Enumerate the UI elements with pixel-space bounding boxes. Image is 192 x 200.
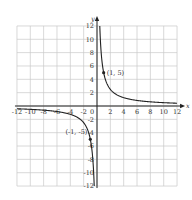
x-tick-label: 2 [108, 108, 112, 116]
y-tick-label: 12 [86, 22, 94, 30]
y-tick-label: 2 [90, 89, 94, 97]
x-axis-label: x [186, 102, 190, 110]
x-tick-label: 8 [148, 108, 152, 116]
y-tick-label: 4 [90, 76, 94, 84]
y-axis-arrow-icon [95, 16, 99, 21]
y-tick-label: 10 [86, 36, 94, 44]
x-tick-label: 10 [160, 108, 168, 116]
y-tick-label: 6 [90, 62, 94, 70]
x-tick-label: -8 [40, 108, 46, 116]
y-tick-label: -10 [84, 169, 94, 177]
point-marker [102, 71, 105, 74]
curve-branch-positive [100, 26, 177, 103]
chart-canvas: xy -12-10-8-6-4-2024681012-12-10-8-6-4-2… [0, 0, 192, 200]
point-label: (-1, -5) [65, 128, 87, 136]
point-marker [89, 138, 92, 141]
y-tick-label: -12 [84, 182, 94, 190]
y-tick-label: 8 [90, 49, 94, 57]
y-tick-label: -2 [88, 116, 94, 124]
x-tick-label: -2 [80, 108, 86, 116]
x-tick-label: 12 [173, 108, 181, 116]
x-tick-label: 4 [122, 108, 126, 116]
x-tick-label: 6 [135, 108, 139, 116]
point-label: (1, 5) [107, 69, 125, 77]
labeled-points: (1, 5)(-1, -5) [65, 69, 124, 141]
hyperbola-chart: xy -12-10-8-6-4-2024681012-12-10-8-6-4-2… [0, 0, 192, 200]
